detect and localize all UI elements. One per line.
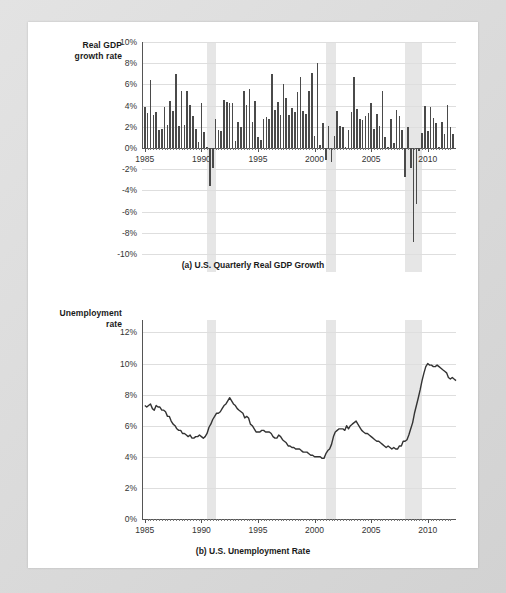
- x-axis-minor-tick: [346, 519, 347, 521]
- gdp-bar: [198, 142, 200, 148]
- x-axis-minor-tick: [159, 519, 160, 521]
- x-axis-minor-tick: [187, 148, 188, 150]
- gdp-bar: [203, 132, 205, 148]
- gdp-bar: [396, 110, 398, 148]
- gdp-bar: [291, 108, 293, 148]
- x-axis-minor-tick: [241, 519, 242, 521]
- x-axis-tick-label: 1995: [249, 525, 268, 535]
- x-axis-minor-tick: [187, 519, 188, 521]
- gdp-axis-title: Real GDP growth rate: [36, 40, 122, 62]
- x-axis-minor-tick: [196, 519, 197, 521]
- x-axis-tick-label: 2005: [362, 525, 381, 535]
- y-axis-tick-label: 6%: [125, 79, 137, 89]
- x-axis-tick: [428, 519, 429, 523]
- x-axis-minor-tick: [377, 148, 378, 150]
- gridline: [142, 254, 456, 255]
- x-axis-minor-tick: [193, 148, 194, 150]
- x-axis-minor-tick: [340, 148, 341, 150]
- y-axis-tick-label: -4%: [122, 185, 137, 195]
- x-axis-minor-tick: [261, 148, 262, 150]
- x-axis-minor-tick: [399, 519, 400, 521]
- x-axis-minor-tick: [320, 148, 321, 150]
- x-axis-minor-tick: [303, 519, 304, 521]
- x-axis-minor-tick: [275, 519, 276, 521]
- y-axis-tick-label: 8%: [125, 58, 137, 68]
- x-axis-minor-tick: [323, 148, 324, 150]
- x-axis-minor-tick: [439, 148, 440, 150]
- x-axis-minor-tick: [227, 148, 228, 150]
- x-axis-minor-tick: [354, 148, 355, 150]
- gdp-bar: [430, 107, 432, 148]
- gdp-bar: [147, 113, 149, 148]
- x-axis-minor-tick: [238, 519, 239, 521]
- gdp-axis-title-line2: growth rate: [36, 51, 122, 62]
- x-axis-tick-label: 2010: [418, 525, 437, 535]
- x-axis-minor-tick: [368, 519, 369, 521]
- x-axis-minor-tick: [408, 519, 409, 521]
- textbook-page-sheet: Real GDP growth rate 10%8%6%4%2%0%-2%-4%…: [28, 22, 478, 568]
- gdp-bar: [257, 137, 259, 148]
- x-axis-minor-tick: [173, 148, 174, 150]
- x-axis-minor-tick: [286, 519, 287, 521]
- x-axis-minor-tick: [450, 519, 451, 521]
- gdp-bar: [362, 120, 364, 148]
- gdp-bar: [167, 125, 169, 148]
- x-axis-minor-tick: [349, 148, 350, 150]
- gridline: [142, 42, 456, 43]
- gdp-bar: [450, 127, 452, 148]
- x-axis-minor-tick: [173, 519, 174, 521]
- y-axis-tick-label: 10%: [120, 359, 137, 369]
- gdp-bar: [209, 148, 211, 186]
- gridline: [142, 233, 456, 234]
- x-axis-minor-tick: [252, 148, 253, 150]
- x-axis-minor-tick: [337, 148, 338, 150]
- x-axis-minor-tick: [184, 148, 185, 150]
- x-axis-minor-tick: [332, 519, 333, 521]
- x-axis-minor-tick: [230, 519, 231, 521]
- x-axis-minor-tick: [162, 148, 163, 150]
- x-axis-minor-tick: [249, 148, 250, 150]
- y-axis-tick-label: -8%: [122, 228, 137, 238]
- x-axis-minor-tick: [281, 519, 282, 521]
- gdp-bar: [407, 127, 409, 148]
- gdp-bar: [294, 112, 296, 148]
- gdp-bar: [254, 101, 256, 148]
- gdp-bar: [232, 103, 234, 148]
- x-axis-minor-tick: [272, 519, 273, 521]
- y-axis-tick-label: 10%: [120, 37, 137, 47]
- x-axis-minor-tick: [439, 519, 440, 521]
- gridline: [142, 212, 456, 213]
- x-axis-minor-tick: [224, 148, 225, 150]
- x-axis-minor-tick: [433, 519, 434, 521]
- x-axis-minor-tick: [317, 519, 318, 521]
- x-axis-tick: [371, 519, 372, 523]
- y-axis-tick-label: -2%: [122, 164, 137, 174]
- x-axis-minor-tick: [182, 148, 183, 150]
- gdp-bar: [201, 103, 203, 148]
- gdp-bar: [215, 119, 217, 148]
- x-axis-minor-tick: [249, 519, 250, 521]
- x-axis-minor-tick: [320, 519, 321, 521]
- x-axis-minor-tick: [360, 519, 361, 521]
- x-axis-minor-tick: [306, 519, 307, 521]
- gdp-bar: [237, 122, 239, 149]
- x-axis-minor-tick: [349, 519, 350, 521]
- x-axis-minor-tick: [176, 519, 177, 521]
- x-axis-minor-tick: [286, 148, 287, 150]
- x-axis-minor-tick: [216, 519, 217, 521]
- x-axis-minor-tick: [300, 148, 301, 150]
- x-axis-minor-tick: [199, 148, 200, 150]
- x-axis-minor-tick: [337, 519, 338, 521]
- gdp-bar: [252, 122, 254, 149]
- x-axis-minor-tick: [357, 148, 358, 150]
- x-axis-tick: [258, 519, 259, 523]
- gdp-bar: [308, 91, 310, 148]
- x-axis-minor-tick: [431, 519, 432, 521]
- gridline: [142, 190, 456, 191]
- unemployment-panel: Unemployment rate 12%10%8%6%4%2%0%198519…: [28, 284, 478, 564]
- x-axis-tick: [201, 519, 202, 523]
- x-axis-minor-tick: [334, 519, 335, 521]
- x-axis-minor-tick: [357, 519, 358, 521]
- x-axis-minor-tick: [272, 148, 273, 150]
- x-axis-minor-tick: [264, 148, 265, 150]
